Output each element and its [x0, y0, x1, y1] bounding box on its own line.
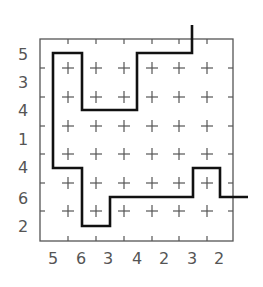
left-clue: 4: [13, 160, 33, 176]
bottom-clue: 2: [154, 251, 174, 267]
bottom-clue: 4: [127, 251, 147, 267]
left-clue: 4: [13, 103, 33, 119]
bottom-clue: 6: [71, 251, 91, 267]
left-clue: 5: [13, 47, 33, 63]
left-clue: 2: [13, 219, 33, 235]
bottom-clue: 5: [43, 251, 63, 267]
left-clue: 3: [13, 75, 33, 91]
puzzle-board: [0, 0, 263, 287]
bottom-clue: 3: [182, 251, 202, 267]
left-clue: 1: [13, 132, 33, 148]
bottom-clue: 2: [209, 251, 229, 267]
left-clue: 6: [13, 191, 33, 207]
bottom-clue: 3: [98, 251, 118, 267]
